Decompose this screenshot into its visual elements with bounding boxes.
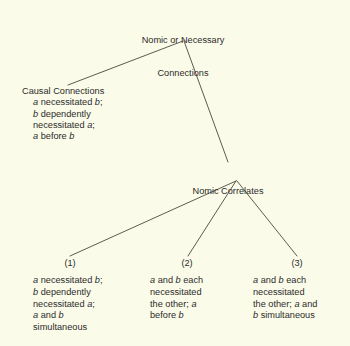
- text-line: b simultaneous: [253, 310, 317, 322]
- text-run: before: [150, 310, 179, 320]
- text-run: and: [258, 275, 278, 285]
- nomic-correlates-label: Nomic Correlates: [193, 186, 264, 197]
- text-line: necessitated a;: [33, 120, 104, 131]
- text-line: before b: [150, 310, 203, 322]
- text-run: necessitated: [33, 299, 87, 309]
- text-line: a necessitated b;: [33, 275, 103, 287]
- leaf-text-3: a and b eachnecessitatedthe other; a and…: [253, 275, 317, 322]
- variable: b: [179, 310, 184, 320]
- text-run: simultaneous: [33, 322, 87, 332]
- variable: b: [59, 310, 64, 320]
- text-line: a and b each: [253, 275, 317, 287]
- leaf-number-2: (2): [181, 258, 192, 269]
- leaf-number-1: (1): [64, 258, 75, 269]
- text-line: necessitated: [150, 287, 203, 299]
- text-line: b dependently: [33, 109, 104, 120]
- root-label-line2: Connections: [142, 68, 225, 79]
- text-run: simultaneous: [258, 310, 315, 320]
- text-run: the other;: [150, 299, 191, 309]
- text-run: each: [181, 275, 203, 285]
- text-line: the other; a and: [253, 299, 317, 311]
- text-run: necessitated: [253, 287, 305, 297]
- text-run: dependently: [38, 109, 91, 119]
- root-node: Nomic or Necessary Connections: [142, 12, 225, 102]
- variable: a: [191, 299, 196, 309]
- text-line: a and b: [33, 310, 103, 322]
- text-run: before: [38, 131, 69, 141]
- text-line: b dependently: [33, 287, 103, 299]
- text-run: necessitated: [38, 97, 95, 107]
- text-line: simultaneous: [33, 322, 103, 334]
- causal-connections-node: Causal Connections a necessitated b;b de…: [22, 86, 104, 142]
- tree-diagram: Nomic or Necessary Connections Causal Co…: [0, 0, 350, 346]
- text-line: a necessitated b;: [33, 97, 104, 108]
- text-run: ;: [100, 275, 103, 285]
- text-run: ;: [100, 97, 103, 107]
- text-run: the other;: [253, 299, 294, 309]
- text-run: ;: [92, 299, 95, 309]
- text-run: and: [300, 299, 318, 309]
- nomic-correlates-node: Nomic Correlates: [193, 163, 264, 219]
- text-run: necessitated: [38, 275, 95, 285]
- text-run: and: [155, 275, 175, 285]
- text-line: a before b: [33, 131, 104, 142]
- text-line: necessitated: [253, 287, 317, 299]
- causal-connections-heading: Causal Connections: [22, 86, 104, 97]
- text-run: necessitated: [150, 287, 202, 297]
- text-run: dependently: [38, 287, 91, 297]
- text-run: necessitated: [33, 120, 87, 130]
- causal-connections-detail: a necessitated b;b dependentlynecessitat…: [33, 97, 104, 142]
- leaf-text-1: a necessitated b;b dependentlynecessitat…: [33, 275, 103, 334]
- text-run: each: [284, 275, 306, 285]
- text-run: and: [38, 310, 58, 320]
- variable: b: [69, 131, 74, 141]
- leaf-number-3: (3): [291, 258, 302, 269]
- text-line: a and b each: [150, 275, 203, 287]
- text-line: the other; a: [150, 299, 203, 311]
- text-line: necessitated a;: [33, 299, 103, 311]
- leaf-text-2: a and b eachnecessitatedthe other; abefo…: [150, 275, 203, 322]
- text-run: ;: [92, 120, 95, 130]
- root-label-line1: Nomic or Necessary: [142, 35, 225, 46]
